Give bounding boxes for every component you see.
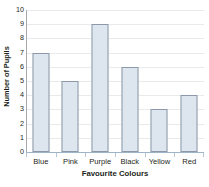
y-axis-tick-label: 1 — [20, 134, 24, 142]
y-axis-tick-label: 6 — [20, 63, 24, 71]
y-axis-tick-label: 2 — [20, 120, 24, 128]
y-axis-tick-label: 3 — [20, 105, 24, 113]
y-axis-tick-label: 8 — [20, 34, 24, 42]
bar[interactable] — [32, 53, 49, 152]
bar-slot — [56, 10, 86, 152]
x-axis-tick-label: Blue — [33, 157, 48, 166]
y-axis-tick-label: 4 — [20, 91, 24, 99]
bar[interactable] — [181, 95, 198, 152]
y-axis-tick-label: 7 — [20, 49, 24, 57]
bar-slot — [26, 10, 56, 152]
bar[interactable] — [151, 109, 168, 152]
y-axis-tick-label: 10 — [16, 6, 24, 14]
x-axis-tick-label: Black — [121, 157, 140, 166]
y-axis-tick-labels: 012345678910 — [12, 6, 25, 152]
x-axis-tick-label: Purple — [89, 157, 111, 166]
bars-layer — [26, 10, 204, 152]
bar-chart: Number of Pupils 012345678910 BluePinkPu… — [0, 0, 209, 187]
bar[interactable] — [62, 81, 79, 152]
bar-slot — [85, 10, 115, 152]
x-axis-title: Favourite Colours — [26, 169, 204, 178]
y-axis-title-text: Number of Pupils — [2, 46, 11, 106]
bar-slot — [174, 10, 204, 152]
y-axis-tick-label: 0 — [20, 148, 24, 156]
plot-area — [26, 10, 204, 152]
x-axis-tick-labels: BluePinkPurpleBlackYellowRed — [26, 157, 204, 169]
bar-slot — [145, 10, 175, 152]
y-axis-tick-label: 9 — [20, 20, 24, 28]
bar-slot — [115, 10, 145, 152]
bar[interactable] — [92, 24, 109, 152]
x-axis-tick-label: Pink — [63, 157, 78, 166]
x-axis-tick-label: Red — [182, 157, 196, 166]
y-axis-title: Number of Pupils — [0, 0, 12, 152]
x-axis-tick-label: Yellow — [149, 157, 171, 166]
bar[interactable] — [121, 67, 138, 152]
y-axis-tick-label: 5 — [20, 77, 24, 85]
